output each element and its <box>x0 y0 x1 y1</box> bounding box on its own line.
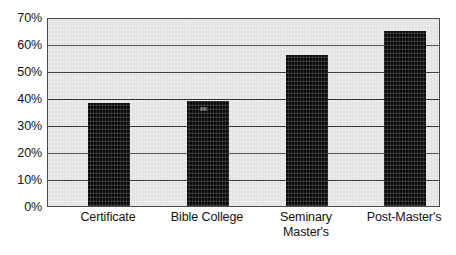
y-tick-label: 50% <box>0 66 42 78</box>
x-tick-label-bible-college: Bible College <box>157 210 257 225</box>
gridline-40 <box>48 99 439 100</box>
x-tick-label-post-masters: Post-Master's <box>354 210 454 225</box>
gridline-50 <box>48 72 439 73</box>
bar-certificate <box>88 103 130 206</box>
bar-post-masters <box>384 31 426 207</box>
y-tick-label: 60% <box>0 39 42 51</box>
gridline-60 <box>48 45 439 46</box>
x-tick-label-line: Bible College <box>171 210 243 224</box>
bar-bible-college <box>187 101 229 206</box>
bar-seminary-masters <box>286 55 328 206</box>
x-tick-label-line: Master's <box>256 225 356 240</box>
x-axis: Certificate Bible College Seminary Maste… <box>47 210 440 255</box>
plot-area <box>47 18 440 207</box>
y-tick-label: 20% <box>0 147 42 159</box>
x-tick-label-line: Certificate <box>80 210 135 224</box>
x-tick-label-certificate: Certificate <box>58 210 158 225</box>
x-tick-label-line: Seminary <box>280 210 332 224</box>
y-axis: 70% 60% 50% 40% 30% 20% 10% 0% <box>0 0 42 255</box>
y-tick-label: 10% <box>0 174 42 186</box>
x-tick-label-seminary-masters: Seminary Master's <box>256 210 356 239</box>
y-tick-label: 30% <box>0 120 42 132</box>
bar-chart-figure: 70% 60% 50% 40% 30% 20% 10% 0% Certifica… <box>0 0 456 255</box>
scan-artifact <box>200 107 207 111</box>
x-tick-label-line: Post-Master's <box>367 210 442 224</box>
y-tick-label: 40% <box>0 93 42 105</box>
y-tick-label: 0% <box>0 201 42 213</box>
y-tick-label: 70% <box>0 12 42 24</box>
